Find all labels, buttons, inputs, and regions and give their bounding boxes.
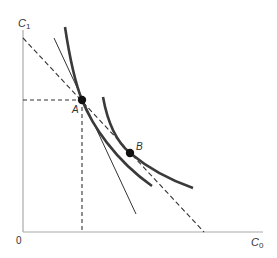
point-b	[126, 149, 134, 157]
point-a	[78, 96, 86, 104]
origin-label: 0	[16, 235, 22, 246]
point-a-label: A	[71, 104, 79, 115]
budget-line	[23, 38, 204, 232]
consumption-diagram: C1 C0 0 A B	[0, 0, 277, 258]
x-axis-label: C0	[251, 236, 264, 250]
point-b-label: B	[136, 141, 143, 152]
indifference-curve-b	[103, 97, 193, 188]
y-axis-label: C1	[18, 17, 31, 31]
